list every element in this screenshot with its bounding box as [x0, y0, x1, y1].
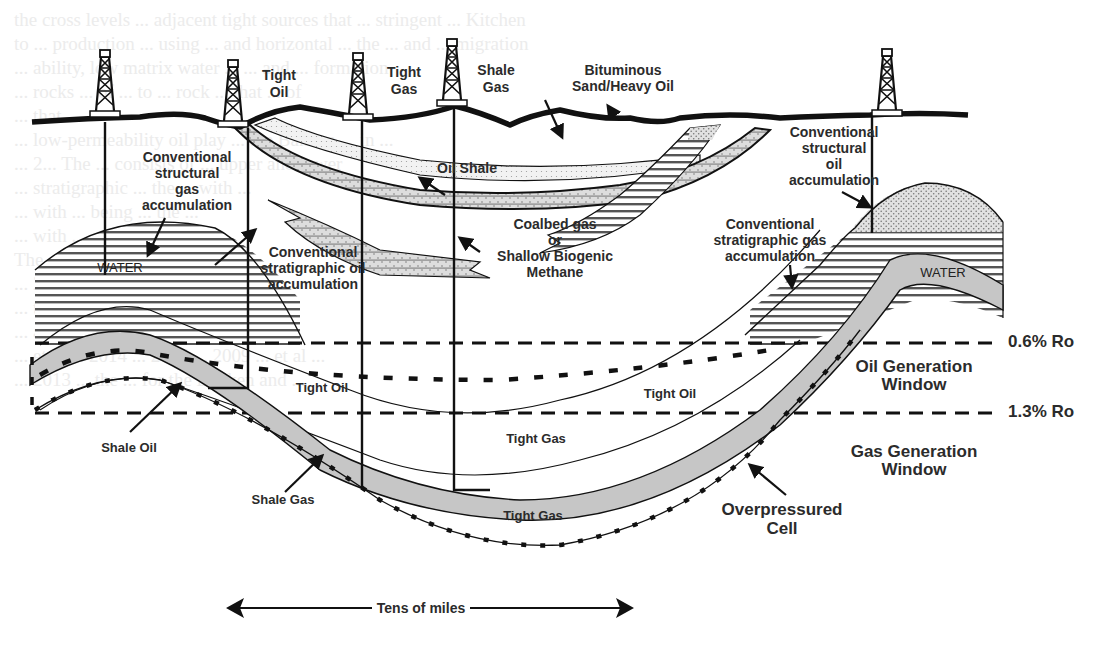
svg-text:Window: Window: [882, 460, 948, 479]
svg-text:structural: structural: [802, 140, 867, 156]
label-shale-gas-well: Shale: [477, 62, 515, 78]
label-tight-oil-2: Tight Oil: [644, 386, 696, 401]
label-conv-strat-oil: Conventional: [269, 244, 358, 260]
label-ro-1-3: 1.3% Ro: [1008, 402, 1074, 421]
label-overpressured: Overpressured: [722, 500, 843, 519]
maturity-labels: 0.6% Ro 1.3% Ro: [1008, 332, 1074, 421]
label-tight-oil-1: Tight Oil: [296, 380, 348, 395]
svg-text:oil: oil: [826, 156, 842, 172]
svg-text:Cell: Cell: [766, 519, 797, 538]
svg-text:Gas: Gas: [391, 81, 418, 97]
label-shale-gas: Shale Gas: [252, 492, 315, 507]
svg-text:Gas: Gas: [483, 79, 510, 95]
svg-text:accumulation: accumulation: [142, 197, 232, 213]
label-shale-oil: Shale Oil: [101, 440, 157, 455]
svg-text:gas: gas: [175, 181, 199, 197]
derrick-icon: [218, 60, 248, 127]
label-conv-strat-gas: Conventional: [726, 216, 815, 232]
derrick-icon: [343, 53, 373, 120]
svg-text:accumulation: accumulation: [789, 172, 879, 188]
well-labels: Tight Oil Tight Gas Shale Gas: [262, 62, 515, 100]
label-tight-oil-well: Tight: [262, 67, 296, 83]
svg-text:Shallow Biogenic: Shallow Biogenic: [497, 248, 613, 264]
label-water-right: WATER: [920, 265, 966, 280]
svg-text:stratigraphic gas: stratigraphic gas: [714, 232, 827, 248]
svg-text:Window: Window: [882, 375, 948, 394]
label-ro-0-6: 0.6% Ro: [1008, 332, 1074, 351]
svg-text:accumulation: accumulation: [268, 276, 358, 292]
svg-text:or: or: [548, 232, 563, 248]
scale-bar: Tens of miles: [226, 598, 634, 618]
label-tight-gas-2: Tight Gas: [503, 508, 563, 523]
svg-text:accumulation: accumulation: [725, 248, 815, 264]
label-tight-gas-1: Tight Gas: [506, 431, 566, 446]
label-oil-shale: Oil Shale: [437, 160, 497, 176]
label-water-left: WATER: [97, 260, 143, 275]
label-scale: Tens of miles: [377, 600, 466, 616]
derrick-icon: [872, 49, 902, 116]
svg-text:Sand/Heavy Oil: Sand/Heavy Oil: [572, 78, 674, 94]
svg-text:Methane: Methane: [527, 264, 584, 280]
derrick-icon: [90, 50, 120, 117]
derrick-icon: [437, 39, 467, 106]
label-gas-window: Gas Generation: [851, 442, 978, 461]
label-tight-gas-well: Tight: [387, 64, 421, 80]
label-bituminous: Bituminous: [585, 62, 662, 78]
svg-text:stratigraphic oil: stratigraphic oil: [260, 260, 365, 276]
label-coalbed: Coalbed gas: [513, 216, 596, 232]
left-anticline-water-trap: [35, 222, 305, 345]
label-conv-struct-oil: Conventional: [790, 124, 879, 140]
label-oil-window: Oil Generation: [855, 357, 972, 376]
svg-text:Oil: Oil: [270, 84, 289, 100]
svg-text:structural: structural: [155, 165, 220, 181]
cross-section-diagram: Tight Oil Tight Gas Shale Gas Bituminous…: [0, 0, 1096, 652]
label-conv-struct-gas: Conventional: [143, 149, 232, 165]
